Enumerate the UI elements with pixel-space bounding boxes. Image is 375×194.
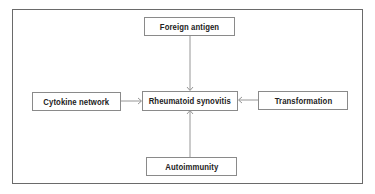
node-label: Rheumatoid synovitis xyxy=(149,96,231,106)
node-rheumatoid-synovitis: Rheumatoid synovitis xyxy=(142,91,238,111)
node-label: Autoimmunity xyxy=(165,162,218,172)
node-label: Cytokine network xyxy=(44,97,110,107)
node-cytokine-network: Cytokine network xyxy=(32,92,121,111)
node-transformation: Transformation xyxy=(258,91,348,110)
node-autoimmunity: Autoimmunity xyxy=(146,157,237,176)
node-label: Transformation xyxy=(274,96,332,106)
node-label: Foreign antigen xyxy=(160,22,219,32)
node-foreign-antigen: Foreign antigen xyxy=(144,17,235,36)
